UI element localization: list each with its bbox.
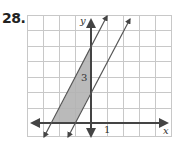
y-axis-label: y	[79, 15, 86, 26]
x-axis-label: x	[163, 125, 169, 136]
y-tick-label: 3	[81, 72, 87, 83]
coordinate-graph: y x 1 3	[0, 0, 175, 149]
x-tick-label: 1	[104, 124, 110, 135]
